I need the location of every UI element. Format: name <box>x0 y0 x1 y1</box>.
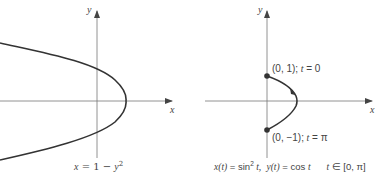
point-bottom <box>264 127 270 133</box>
point-top-coord: (0, 1); <box>272 63 298 74</box>
left-y-axis-label: y <box>87 4 91 15</box>
right-y-axis-label: y <box>258 4 262 15</box>
point-bottom-value: = π <box>309 132 327 143</box>
left-x-axis-label: x <box>170 104 174 115</box>
point-top <box>264 73 270 79</box>
left-graph <box>0 11 172 160</box>
point-bottom-label: (0, −1); t = π <box>272 132 328 143</box>
caption-eq: = 1 − <box>78 161 114 172</box>
caption-range: ∈ [0, π] <box>329 161 366 172</box>
caption-x-func: x(t) <box>214 162 227 172</box>
right-caption: x(t) = sin2 t, y(t) = cos t t ∈ [0, π] <box>214 160 366 172</box>
right-parametric-curve <box>267 76 297 130</box>
point-top-value: = 0 <box>303 63 320 74</box>
caption-y-t: t <box>308 162 311 172</box>
caption-x-t: t, <box>254 162 261 172</box>
left-parabola-curve <box>0 43 126 160</box>
left-caption: x = 1 − y2 <box>74 160 123 172</box>
point-top-label: (0, 1); t = 0 <box>272 63 320 74</box>
right-x-axis-label: x <box>370 104 374 115</box>
caption-y-func: y(t) <box>266 162 279 172</box>
diagram-canvas <box>0 0 381 183</box>
caption-x-eq: = sin <box>227 161 250 172</box>
caption-exponent: 2 <box>119 160 123 168</box>
point-bottom-coord: (0, −1); <box>272 132 304 143</box>
caption-y-eq: = cos <box>280 161 308 172</box>
